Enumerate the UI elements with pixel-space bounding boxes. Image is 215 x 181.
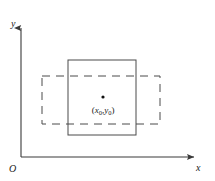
figure-container: y x O (x0,y0) <box>0 0 215 181</box>
origin-label: O <box>9 163 16 174</box>
paren-close: ) <box>111 105 114 115</box>
coordinate-plane-figure: y x O (x0,y0) <box>0 0 215 181</box>
dashed-rectangle <box>42 76 160 124</box>
center-point-marker <box>101 95 104 98</box>
x-axis-label: x <box>195 162 201 173</box>
center-point-label: (x0,y0) <box>92 105 115 116</box>
y-axis-label: y <box>10 18 16 29</box>
